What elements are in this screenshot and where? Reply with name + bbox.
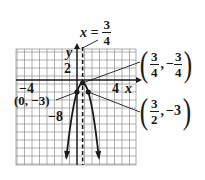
point-y-intercept: [74, 89, 79, 94]
vertex-x: 3 4: [150, 50, 159, 79]
vertex-x-den: 4: [151, 65, 158, 79]
symmetric-point-label: ( 3 2 , −3 ): [138, 93, 193, 129]
sym-point-x-num: 3: [150, 97, 159, 112]
sym-point-rparen: ): [183, 93, 191, 129]
vertex-label: ( 3 4 , − 3 4 ): [138, 46, 194, 82]
sym-point-x: 3 2: [150, 97, 159, 126]
vertex-x-num: 3: [150, 50, 159, 65]
vertex-y-sign: −: [166, 57, 174, 71]
point-vertex: [80, 80, 85, 85]
symmetry-fraction: 3 4: [102, 18, 111, 47]
point-symmetric-point: [86, 89, 91, 94]
y-intercept-label: (0, −3): [14, 94, 50, 107]
vertex-lparen: (: [140, 46, 148, 82]
y-tick-label-2: 2: [64, 62, 71, 76]
symmetry-label: x = 3 4: [80, 18, 111, 47]
vertex-y-den: 4: [175, 65, 182, 79]
symmetry-denominator: 4: [103, 33, 110, 47]
symmetry-numerator: 3: [102, 18, 111, 33]
symmetry-prefix: x =: [80, 26, 98, 40]
y-axis-label: y: [66, 46, 72, 60]
vertex-y-num: 3: [174, 50, 183, 65]
sym-point-y: −3: [166, 104, 181, 118]
vertex-rparen: ): [184, 46, 192, 82]
sym-point-x-den: 2: [151, 112, 158, 126]
sym-point-lparen: (: [140, 93, 148, 129]
x-axis-label: x: [125, 82, 132, 96]
vertex-sep: ,: [161, 57, 165, 71]
y-tick-label-neg8: −8: [48, 110, 63, 124]
vertex-y: 3 4: [174, 50, 183, 79]
x-tick-label-4: 4: [112, 82, 119, 96]
sym-point-sep: ,: [161, 104, 165, 118]
